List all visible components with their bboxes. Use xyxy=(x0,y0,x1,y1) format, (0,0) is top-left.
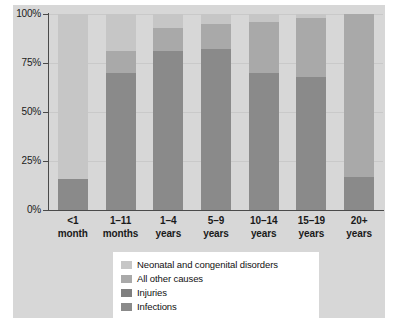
x-axis-line xyxy=(48,210,384,211)
x-axis-tick-label-line: month xyxy=(49,228,97,241)
x-axis-tick-label-line: years xyxy=(192,228,240,241)
legend-swatch-icon xyxy=(121,275,132,283)
y-axis-tick-mark xyxy=(43,161,49,162)
x-axis-tick-label: 10–14years xyxy=(240,215,288,240)
bar-stack xyxy=(249,14,279,210)
bar-segment[interactable] xyxy=(153,51,183,210)
x-axis-tick-label: 20+years xyxy=(335,215,383,240)
bar-stack xyxy=(58,14,88,210)
y-axis-tick-mark xyxy=(43,63,49,64)
bar-column[interactable] xyxy=(106,14,136,210)
bar-column[interactable] xyxy=(296,14,326,210)
bar-segment[interactable] xyxy=(201,24,231,49)
bar-segment[interactable] xyxy=(249,14,279,22)
x-axis-tick-label-line: 15–19 xyxy=(288,215,336,228)
y-axis-tick-label: 100% xyxy=(1,8,41,19)
bar-column[interactable] xyxy=(249,14,279,210)
x-axis-tick-label-line: years xyxy=(144,228,192,241)
legend-item[interactable]: Infections xyxy=(121,300,311,313)
legend-label: Infections xyxy=(137,301,177,312)
legend-item[interactable]: Injuries xyxy=(121,286,311,299)
chart-legend: Neonatal and congenital disordersAll oth… xyxy=(113,252,319,320)
bar-stack xyxy=(153,14,183,210)
bar-stack xyxy=(106,14,136,210)
x-axis-tick-label-line: years xyxy=(335,228,383,241)
y-axis-tick-mark xyxy=(43,14,49,15)
chart-figure: 0%25%50%75%100% <1month1–11months1–4year… xyxy=(0,0,398,335)
legend-label: Neonatal and congenital disorders xyxy=(137,259,278,270)
y-axis-tick-label: 50% xyxy=(1,106,41,117)
bar-segment[interactable] xyxy=(344,14,374,177)
bar-stack xyxy=(201,14,231,210)
x-axis-tick-label: 5–9years xyxy=(192,215,240,240)
bar-stack xyxy=(344,14,374,210)
x-axis-tick-label: 1–11months xyxy=(97,215,145,240)
bar-segment[interactable] xyxy=(296,18,326,77)
bar-stack xyxy=(296,14,326,210)
x-axis-tick-label-line: <1 xyxy=(49,215,97,228)
bar-segment[interactable] xyxy=(58,14,88,179)
x-axis-tick-label-line: years xyxy=(240,228,288,241)
bar-segment[interactable] xyxy=(344,177,374,210)
x-axis-tick-label-line: years xyxy=(288,228,336,241)
bar-column[interactable] xyxy=(153,14,183,210)
legend-swatch-icon xyxy=(121,261,132,269)
x-axis-tick-label-line: 20+ xyxy=(335,215,383,228)
plot-area xyxy=(49,14,383,210)
bar-segment[interactable] xyxy=(249,73,279,210)
legend-swatch-icon xyxy=(121,289,132,297)
legend-label: All other causes xyxy=(137,273,203,284)
legend-item[interactable]: All other causes xyxy=(121,272,311,285)
bar-column[interactable] xyxy=(58,14,88,210)
y-axis-tick-label: 0% xyxy=(1,204,41,215)
x-axis-tick-label: <1month xyxy=(49,215,97,240)
bar-segment[interactable] xyxy=(201,49,231,210)
legend-item[interactable]: Neonatal and congenital disorders xyxy=(121,258,311,271)
bar-column[interactable] xyxy=(201,14,231,210)
bar-segment[interactable] xyxy=(153,14,183,28)
x-axis-tick-label-line: 1–4 xyxy=(144,215,192,228)
y-axis-tick-mark xyxy=(43,112,49,113)
x-axis-tick-label: 1–4years xyxy=(144,215,192,240)
bar-segment[interactable] xyxy=(296,77,326,210)
x-axis-tick-label: 15–19years xyxy=(288,215,336,240)
bar-segment[interactable] xyxy=(58,179,88,210)
bar-segment[interactable] xyxy=(153,28,183,52)
bar-segment[interactable] xyxy=(106,14,136,51)
legend-swatch-icon xyxy=(121,303,132,311)
bar-segment[interactable] xyxy=(249,22,279,73)
bar-segment[interactable] xyxy=(106,73,136,210)
bar-segment[interactable] xyxy=(106,51,136,73)
x-axis-tick-label-line: 10–14 xyxy=(240,215,288,228)
x-axis-tick-label-line: 5–9 xyxy=(192,215,240,228)
x-axis-tick-label-line: 1–11 xyxy=(97,215,145,228)
y-axis-tick-mark xyxy=(43,210,49,211)
legend-label: Injuries xyxy=(137,287,167,298)
bar-segment[interactable] xyxy=(201,14,231,24)
x-axis-tick-label-line: months xyxy=(97,228,145,241)
y-axis-tick-label: 25% xyxy=(1,155,41,166)
y-axis-tick-label: 75% xyxy=(1,57,41,68)
bar-column[interactable] xyxy=(344,14,374,210)
y-axis-tick-labels: 0%25%50%75%100% xyxy=(0,0,41,335)
